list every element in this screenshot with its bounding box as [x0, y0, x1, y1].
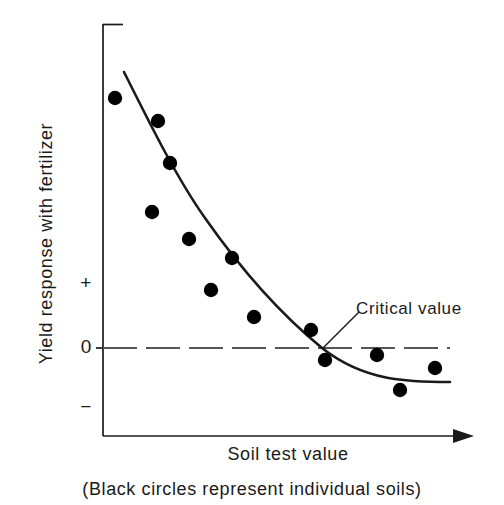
- data-point: [163, 156, 177, 170]
- data-point: [204, 283, 218, 297]
- data-point: [108, 91, 122, 105]
- chart-canvas: [0, 0, 504, 505]
- data-point: [304, 323, 318, 337]
- figure-container: Yield response with fertilizer + 0 − Cri…: [0, 0, 504, 505]
- y-tick-label-plus: +: [62, 272, 92, 294]
- critical-value-annotation: Critical value: [356, 299, 462, 319]
- data-point: [370, 348, 384, 362]
- critical-value-leader-line: [322, 312, 359, 349]
- y-tick-label-minus: −: [62, 396, 92, 418]
- data-point: [182, 232, 196, 246]
- x-axis-arrowhead-icon: [453, 429, 474, 443]
- data-point: [318, 353, 332, 367]
- y-axis-title: Yield response with fertilizer: [36, 94, 57, 394]
- data-point: [145, 205, 159, 219]
- figure-caption: (Black circles represent individual soil…: [0, 479, 504, 500]
- data-point: [247, 310, 261, 324]
- data-point: [393, 383, 407, 397]
- data-point: [225, 251, 239, 265]
- data-point: [151, 114, 165, 128]
- x-axis-title: Soil test value: [103, 444, 473, 465]
- data-point: [428, 361, 442, 375]
- y-tick-label-zero: 0: [62, 336, 92, 358]
- response-curve: [124, 72, 450, 382]
